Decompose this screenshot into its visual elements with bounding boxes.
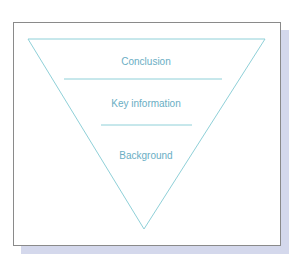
inverted-pyramid bbox=[0, 0, 303, 266]
layer-label-background: Background bbox=[46, 150, 246, 161]
pyramid-outline bbox=[28, 39, 265, 229]
layer-label-key-information: Key information bbox=[46, 98, 246, 109]
layer-label-conclusion: Conclusion bbox=[46, 56, 246, 67]
